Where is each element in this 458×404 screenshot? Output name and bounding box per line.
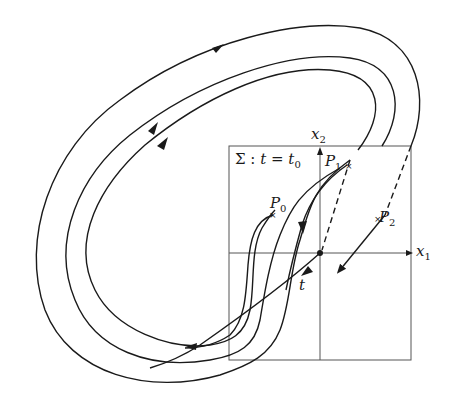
t-trajectory bbox=[150, 253, 320, 368]
x2-arrow-icon bbox=[317, 147, 323, 155]
inner-trajectory bbox=[86, 70, 376, 346]
x1-arrow-icon bbox=[406, 250, 413, 256]
arrow-inner-left-icon bbox=[157, 137, 168, 150]
p1-marker: × bbox=[345, 161, 353, 171]
p2-label: P2 bbox=[379, 210, 395, 225]
dashed-p2-path bbox=[385, 146, 411, 215]
section-label: Σ : t = t0 bbox=[235, 152, 301, 167]
arrow-middle-left-icon bbox=[148, 122, 158, 135]
arrow-bottom-icon bbox=[185, 343, 197, 350]
x1-axis-label: x1 bbox=[416, 244, 431, 259]
p1-label: P1 bbox=[325, 154, 341, 169]
origin-point bbox=[317, 250, 323, 256]
t-label: t bbox=[299, 278, 305, 293]
x2-axis-label: x2 bbox=[311, 127, 326, 142]
p0-label: P0 bbox=[270, 196, 286, 211]
phase-portrait: × × × bbox=[0, 0, 458, 404]
arrow-outer-top-icon bbox=[212, 44, 224, 53]
diagram-canvas: × × × x2 x1 Σ : t = t0 P0 P1 P2 t bbox=[0, 0, 458, 404]
